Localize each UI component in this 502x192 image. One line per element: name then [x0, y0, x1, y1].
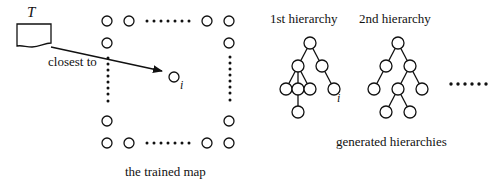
- first-hierarchy-title: 1st hierarchy: [270, 12, 338, 25]
- node-i: [169, 72, 179, 82]
- document-label: T: [27, 5, 35, 20]
- node-i-label: i: [180, 79, 183, 91]
- second-hierarchy-title: 2nd hierarchy: [359, 12, 431, 25]
- arrow-label: closest to: [48, 55, 97, 68]
- trained-map: [102, 16, 234, 148]
- more-hierarchies-ellipsis: [449, 82, 487, 85]
- map-ellipsis-dots: [107, 20, 232, 145]
- map-caption: the trained map: [125, 165, 206, 178]
- diagram: T closest to i the trained map 1st hiera…: [0, 0, 502, 192]
- diagram-graphics: [0, 0, 502, 192]
- document-icon: [17, 24, 51, 47]
- hierarchies-caption: generated hierarchies: [336, 135, 447, 148]
- hierarchy-node-i-label: i: [337, 92, 340, 104]
- hierarchy-2: [368, 37, 428, 118]
- hierarchy-1: [280, 37, 340, 118]
